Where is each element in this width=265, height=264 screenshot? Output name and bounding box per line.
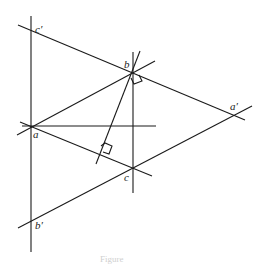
figure-caption: Figure <box>100 254 124 264</box>
line-a-c <box>20 122 152 176</box>
geometry-diagram: c′ b a a′ c b′ Figure <box>0 0 265 264</box>
line-a-b <box>17 61 155 135</box>
line-b-prime-a-prime <box>18 106 252 228</box>
label-a: a <box>33 128 39 140</box>
label-c: c <box>124 171 129 183</box>
label-a-prime: a′ <box>230 100 239 112</box>
right-angle-mark-ac <box>101 143 112 154</box>
label-b-prime: b′ <box>35 219 44 231</box>
label-c-prime: c′ <box>35 23 43 35</box>
label-b: b <box>124 58 130 70</box>
